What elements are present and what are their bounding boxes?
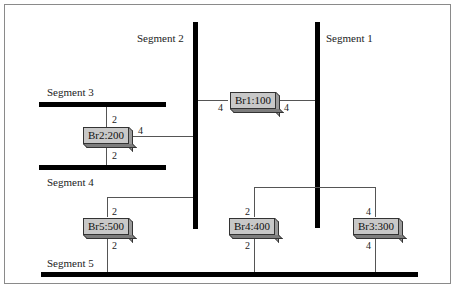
bridge-3d-side — [129, 127, 133, 152]
segment-3-bar — [39, 102, 166, 107]
br1-wire-right — [278, 100, 315, 101]
diagram-frame — [4, 4, 451, 284]
bridge-3d-side — [276, 92, 280, 117]
segment-4-bar — [39, 165, 166, 170]
bridge-3d-bottom — [229, 235, 283, 239]
br1-port-left: 4 — [218, 103, 223, 113]
br4-port-top: 2 — [245, 207, 250, 217]
br4-port-bottom: 2 — [245, 241, 250, 251]
br2-port-bottom: 2 — [112, 151, 117, 161]
bridge-br4-label: Br4:400 — [229, 218, 275, 235]
br4-wire-bottom — [254, 238, 255, 272]
bridge-br2-label: Br2:200 — [83, 127, 129, 144]
bridge-br5-label: Br5:500 — [83, 218, 129, 235]
bridge-br3-label: Br3:300 — [353, 218, 399, 235]
bridge-br1[interactable]: Br1:100 — [230, 92, 276, 109]
br5-port-bottom: 2 — [112, 241, 117, 251]
br4-wire-top — [254, 187, 255, 217]
network-diagram: Segment 2 Segment 1 Segment 3 Segment 4 … — [0, 0, 458, 290]
br3-port-top: 4 — [366, 207, 371, 217]
segment-2-label: Segment 2 — [137, 33, 184, 44]
br1-wire-left — [198, 100, 228, 101]
br3-port-bottom: 4 — [366, 241, 371, 251]
seg1-branch-horizontal — [254, 187, 376, 188]
bridge-br5[interactable]: Br5:500 — [83, 218, 129, 235]
segment-5-label: Segment 5 — [47, 258, 94, 269]
bridge-br4[interactable]: Br4:400 — [229, 218, 275, 235]
bridge-3d-bottom — [83, 144, 137, 148]
segment-2-bar — [193, 22, 198, 229]
bridge-br3[interactable]: Br3:300 — [353, 218, 399, 235]
bridge-3d-side — [275, 218, 279, 243]
segment-5-bar — [41, 272, 418, 277]
bridge-br1-label: Br1:100 — [230, 92, 276, 109]
br5-wire-bottom — [107, 238, 108, 272]
br3-wire-top — [375, 187, 376, 217]
segment-1-label: Segment 1 — [326, 33, 373, 44]
bridge-3d-bottom — [83, 235, 137, 239]
bridge-3d-side — [129, 218, 133, 243]
br5-wire-horizontal — [107, 197, 193, 198]
br2-port-top: 2 — [112, 115, 117, 125]
br3-wire-bottom — [375, 238, 376, 272]
br2-wire-right — [133, 136, 193, 137]
br2-wire-bottom — [106, 148, 107, 165]
br5-port-top: 2 — [112, 207, 117, 217]
segment-1-bar — [315, 22, 320, 228]
bridge-br2[interactable]: Br2:200 — [83, 127, 129, 144]
br2-wire-top — [106, 107, 107, 127]
br1-port-right: 4 — [284, 103, 289, 113]
br5-wire-top — [107, 197, 108, 217]
segment-4-label: Segment 4 — [47, 177, 94, 188]
bridge-3d-side — [399, 218, 403, 243]
bridge-3d-bottom — [230, 109, 284, 113]
bridge-3d-bottom — [353, 235, 407, 239]
br2-port-right: 4 — [138, 126, 143, 136]
segment-3-label: Segment 3 — [47, 87, 94, 98]
